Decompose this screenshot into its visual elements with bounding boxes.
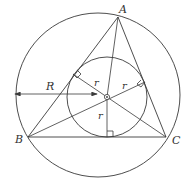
vertex-label-c: C [172,134,181,147]
circumradius-label: R [45,80,54,93]
vertex-label-a: A [118,3,127,16]
inradius-label-ac: r [122,80,128,91]
inradius-label-bc: r [98,110,104,121]
circumcircle [16,13,180,177]
inradius-label-ab: r [94,77,100,88]
geometry-diagram: A B C R r r r [0,0,185,181]
incenter-dot [106,96,108,98]
bisector-c [73,74,166,137]
right-angle-marker-bc [107,131,113,137]
vertex-label-b: B [14,133,23,146]
